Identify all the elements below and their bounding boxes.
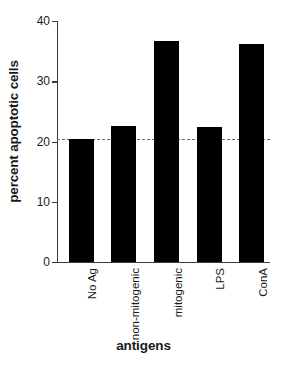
bar [197, 127, 222, 262]
plot-area: 010203040 No Agnon-mitogenicmitogenicLPS… [57, 21, 270, 262]
y-tick-mark [52, 202, 57, 203]
x-category-label: ConA [257, 268, 269, 297]
y-tick-mark [52, 81, 57, 82]
y-axis-line [57, 21, 58, 262]
x-axis-title: antigens [0, 338, 287, 353]
y-tick-label: 40 [37, 14, 50, 28]
y-tick-label: 30 [37, 74, 50, 88]
bar [154, 41, 179, 262]
x-category-label: LPS [214, 268, 226, 290]
bar [239, 44, 264, 262]
y-tick-mark [52, 21, 57, 22]
y-tick-label: 20 [37, 135, 50, 149]
bar [111, 126, 136, 262]
bar [69, 139, 94, 262]
y-axis-title-text: percent apoptotic cells [6, 60, 21, 202]
bar-chart-figure: percent apoptotic cells 010203040 No Agn… [0, 0, 287, 371]
y-tick-label: 10 [37, 195, 50, 209]
x-axis-line [57, 262, 270, 263]
y-tick-mark [52, 142, 57, 143]
x-category-label: non-mitogenic [129, 268, 141, 340]
x-category-label: No Ag [86, 268, 98, 299]
y-tick-label: 0 [43, 255, 50, 269]
y-axis-title: percent apoptotic cells [0, 0, 26, 262]
y-tick-mark [52, 262, 57, 263]
x-category-label: mitogenic [172, 268, 184, 317]
